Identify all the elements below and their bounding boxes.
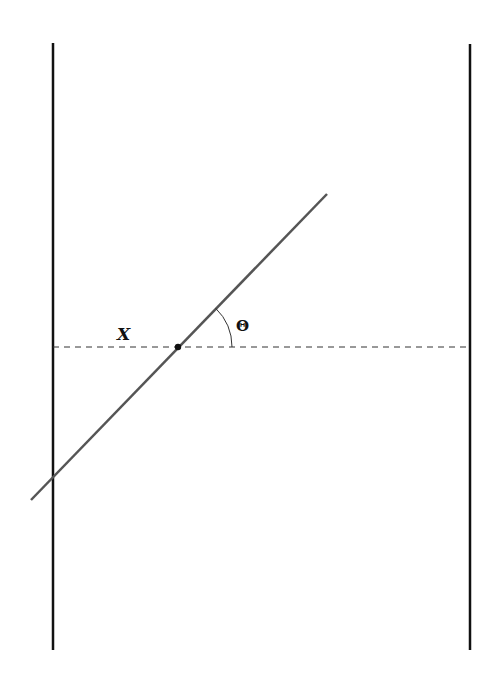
angle-arc [216,308,232,347]
pivot-point [175,344,181,350]
position-label-x: X [116,324,131,344]
angle-label-theta: Θ [236,317,249,335]
diagram-canvas: X Θ [0,0,496,681]
